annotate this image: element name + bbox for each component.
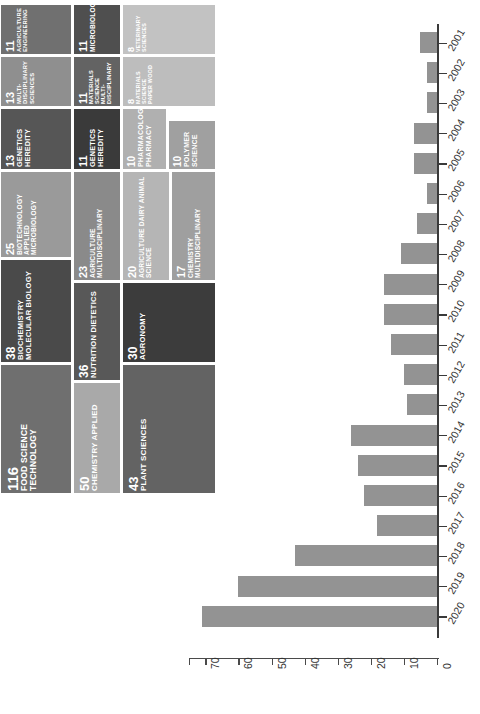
treemap-cell-value: 23: [78, 176, 89, 278]
category-label: 2020: [445, 600, 467, 626]
treemap-cell-label: MATERIALS SCIENCE MULTI-DISCIPLINARY: [89, 61, 113, 104]
value-tick: [404, 658, 405, 665]
value-tick: [338, 658, 339, 665]
treemap-cell: 10PHARMACOLOGY PHARMACY: [122, 108, 167, 170]
bar: [384, 274, 437, 295]
treemap-cell-value: 10: [127, 113, 137, 167]
treemap-cell: 13MULTI-DISCIPLINARY SCIENCES: [0, 56, 72, 107]
category-label: 2011: [445, 329, 467, 355]
bar-chart: 2001200220032004200520062007200820092010…: [190, 14, 480, 714]
treemap-cell: 20AGRICULTURE DAIRY ANIMAL SCIENCE: [122, 171, 170, 281]
treemap-cell-label: AGRONOMY: [139, 287, 147, 360]
bar: [404, 364, 437, 385]
value-label: 30: [342, 657, 354, 669]
treemap-cell: 38BIOCHEMISTRY MOLECULAR BIOLOGY: [0, 259, 72, 363]
bar: [407, 394, 437, 415]
category-label: 2001: [445, 26, 467, 52]
value-tick: [305, 658, 306, 665]
treemap-cell: 36NUTRITION DIETETICS: [73, 282, 121, 381]
value-tick: [272, 658, 273, 665]
treemap-cell-value: 50: [78, 387, 91, 491]
bar: [427, 183, 437, 204]
category-label: 2016: [445, 479, 467, 505]
treemap-cell-label: BIOTECHNOLOGY APPLIED MICROBIOLOGY: [16, 176, 37, 255]
bar: [414, 153, 437, 174]
treemap-cell-label: AGRICULTURE MULTIDISCIPLINARY: [89, 176, 103, 278]
treemap-cell-value: 20: [127, 176, 138, 278]
treemap-cell-label: CHEMISTRY APPLIED: [91, 387, 99, 491]
bar: [414, 123, 437, 144]
treemap-cell: 23AGRICULTURE MULTIDISCIPLINARY: [73, 171, 121, 281]
category-label: 2013: [445, 389, 467, 415]
bar: [358, 455, 437, 476]
bar: [351, 425, 437, 446]
treemap-cell-value: 25: [5, 176, 16, 255]
value-tick: [238, 658, 239, 665]
treemap-cell-value: 116: [5, 369, 20, 491]
treemap-cell: 11MATERIALS SCIENCE MULTI-DISCIPLINARY: [73, 56, 121, 107]
treemap-cell-label: MATERIALS SCIENCE PAPER WOOD: [136, 61, 153, 104]
category-label: 2009: [445, 268, 467, 294]
treemap-cell: 50CHEMISTRY APPLIED: [73, 382, 121, 494]
value-label: 70: [209, 657, 221, 669]
bar: [238, 576, 437, 597]
category-label: 2017: [445, 509, 467, 535]
category-label: 2003: [445, 87, 467, 113]
treemap-cell: 13GENETICS HEREDITY: [0, 108, 72, 170]
treemap-cell: 25BIOTECHNOLOGY APPLIED MICROBIOLOGY: [0, 171, 72, 258]
bar: [420, 32, 437, 53]
bar: [364, 485, 437, 506]
treemap-cell-label: MULTI-DISCIPLINARY SCIENCES: [16, 61, 34, 104]
bar: [377, 515, 437, 536]
value-label: 20: [375, 657, 387, 669]
value-axis-line: [437, 24, 439, 638]
category-label: 2015: [445, 449, 467, 475]
bar: [417, 213, 437, 234]
category-label: 2005: [445, 147, 467, 173]
treemap-cell-value: 13: [5, 61, 16, 104]
treemap-cell-value: 43: [127, 369, 140, 491]
value-tick: [437, 658, 438, 665]
category-label: 2007: [445, 207, 467, 233]
bar: [295, 545, 437, 566]
treemap-cell-label: FOOD SCIENCE TECHNOLOGY: [20, 369, 38, 491]
treemap-cell-value: 11: [5, 9, 16, 52]
category-label: 2018: [445, 540, 467, 566]
treemap-cell-label: PHARMACOLOGY PHARMACY: [137, 113, 152, 167]
bar: [401, 243, 437, 264]
bar: [427, 62, 437, 83]
treemap-cell-value: 11: [78, 9, 89, 52]
category-label: 2012: [445, 358, 467, 384]
treemap-cell-label: NUTRITION DIETETICS: [90, 287, 98, 378]
treemap-cell: 116FOOD SCIENCE TECHNOLOGY: [0, 364, 72, 494]
value-label: 60: [242, 657, 254, 669]
category-label: 2002: [445, 56, 467, 82]
bar: [427, 92, 437, 113]
treemap-cell-label: AGRICULTURE ENGINEERING: [16, 9, 28, 52]
treemap-cell-label: GENETICS HEREDITY: [89, 113, 104, 167]
category-label: 2004: [445, 117, 467, 143]
category-label: 2019: [445, 570, 467, 596]
bar: [391, 334, 437, 355]
treemap-cell-label: PLANT SCIENCES: [140, 369, 148, 491]
value-tick: [371, 658, 372, 665]
category-label: 2014: [445, 419, 467, 445]
treemap-cell-label: MICROBIOLOGY: [89, 9, 96, 52]
category-label: 2008: [445, 238, 467, 264]
treemap-cell-value: 17: [176, 176, 187, 278]
treemap-chart: 116FOOD SCIENCE TECHNOLOGY50CHEMISTRY AP…: [0, 0, 216, 494]
bar: [384, 304, 437, 325]
bar: [202, 606, 437, 627]
treemap-cell-label: BIOCHEMISTRY MOLECULAR BIOLOGY: [17, 264, 33, 360]
treemap-cell-value: 10: [173, 125, 183, 167]
value-tick: [205, 658, 206, 665]
value-label: 0: [441, 663, 453, 669]
treemap-cell: 11GENETICS HEREDITY: [73, 108, 121, 170]
value-label: 50: [276, 657, 288, 669]
treemap-cell: 11MICROBIOLOGY: [73, 4, 121, 55]
category-label: 2010: [445, 298, 467, 324]
value-axis-end-tick: [189, 658, 190, 665]
treemap-cell-label: AGRICULTURE DAIRY ANIMAL SCIENCE: [138, 176, 152, 278]
treemap-cell-label: GENETICS HEREDITY: [16, 113, 31, 167]
treemap-cell: 11AGRICULTURE ENGINEERING: [0, 4, 72, 55]
